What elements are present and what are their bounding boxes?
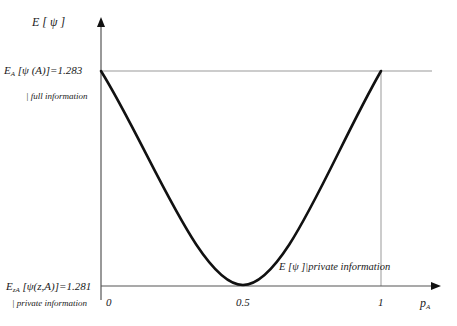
x-axis-label: pA (420, 296, 430, 311)
x-tick-0-5: 0.5 (236, 296, 250, 308)
full-information-note: | full information (26, 91, 87, 101)
chart-canvas (0, 0, 457, 326)
y-axis-label: E [ ψ ] (32, 15, 65, 30)
x-axis-arrow-icon (431, 282, 441, 290)
x-axis-sub: A (426, 303, 430, 311)
full-information-value-label: EA [ψ (A)]=1.283 (4, 64, 82, 78)
top-value-main: E (4, 64, 11, 76)
y-axis-arrow-icon (97, 17, 105, 27)
bottom-value-rest: [ψ(z,A)]=1.281 (20, 280, 91, 292)
x-tick-1: 1 (378, 296, 384, 308)
private-information-value-label: EzA [ψ(z,A)]=1.281 (6, 280, 91, 294)
private-information-note: | private information (12, 298, 87, 308)
expected-value-curve (101, 71, 381, 285)
top-value-rest: [ψ (A)]=1.283 (15, 64, 82, 76)
curve-label: E [ψ ]|private information (279, 261, 390, 272)
bottom-value-main: E (6, 280, 13, 292)
x-tick-0: 0 (106, 296, 112, 308)
bottom-value-sub: zA (13, 286, 20, 294)
